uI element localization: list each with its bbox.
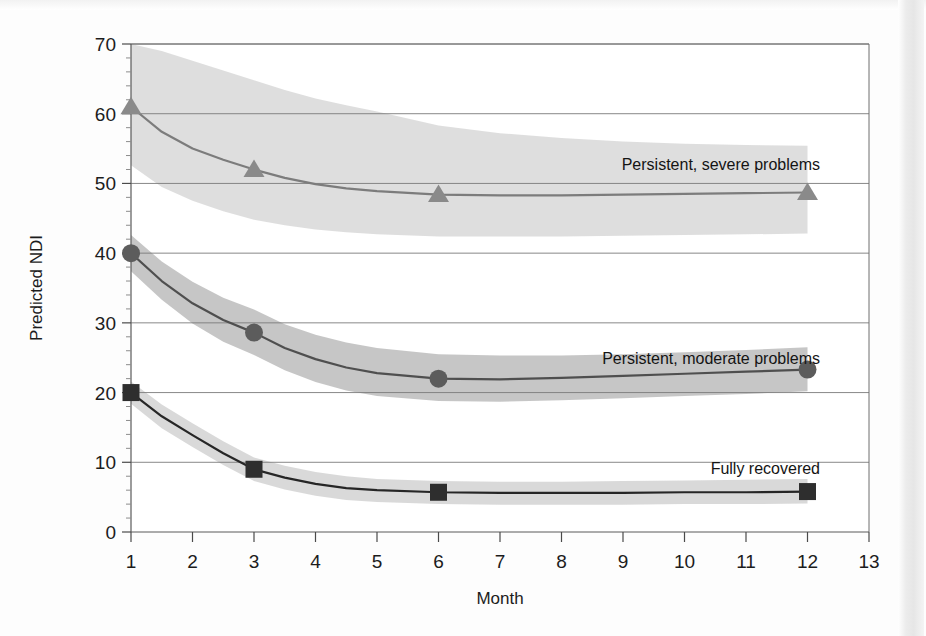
series-label-severe: Persistent, severe problems — [622, 156, 820, 173]
x-tick-label-6: 6 — [433, 551, 444, 572]
marker-square-2-1 — [123, 384, 140, 401]
x-tick-label-7: 7 — [495, 551, 506, 572]
y-tick-label-60: 60 — [95, 104, 116, 125]
x-tick-label-10: 10 — [674, 551, 695, 572]
x-axis-title: Month — [476, 589, 523, 608]
y-tick-label-40: 40 — [95, 243, 116, 264]
y-tick-label-30: 30 — [95, 313, 116, 334]
x-tick-label-1: 1 — [126, 551, 137, 572]
y-tick-label-50: 50 — [95, 173, 116, 194]
marker-circle-1-1 — [122, 244, 140, 262]
y-tick-label-0: 0 — [105, 522, 116, 543]
x-tick-label-8: 8 — [556, 551, 567, 572]
marker-square-2-6 — [430, 484, 447, 501]
x-tick-label-11: 11 — [736, 551, 756, 572]
series-label-recovered: Fully recovered — [711, 460, 820, 477]
marker-circle-1-3 — [245, 324, 263, 342]
series-label-moderate: Persistent, moderate problems — [602, 350, 820, 367]
x-tick-label-13: 13 — [858, 551, 879, 572]
figure-root: 01020304050607012345678910111213MonthPre… — [0, 0, 926, 636]
marker-circle-1-6 — [430, 370, 448, 388]
ndi-trajectory-chart: 01020304050607012345678910111213MonthPre… — [0, 0, 926, 636]
marker-square-2-3 — [246, 461, 263, 478]
x-tick-label-2: 2 — [187, 551, 198, 572]
y-tick-label-10: 10 — [95, 452, 116, 473]
x-tick-label-12: 12 — [797, 551, 818, 572]
chart-container: 01020304050607012345678910111213MonthPre… — [0, 0, 926, 636]
y-tick-label-70: 70 — [95, 34, 116, 55]
x-tick-label-9: 9 — [618, 551, 629, 572]
x-tick-label-5: 5 — [372, 551, 383, 572]
x-tick-label-4: 4 — [310, 551, 321, 572]
y-tick-label-20: 20 — [95, 383, 116, 404]
marker-square-2-12 — [799, 483, 816, 500]
y-axis-title: Predicted NDI — [27, 235, 46, 341]
x-tick-label-3: 3 — [249, 551, 260, 572]
